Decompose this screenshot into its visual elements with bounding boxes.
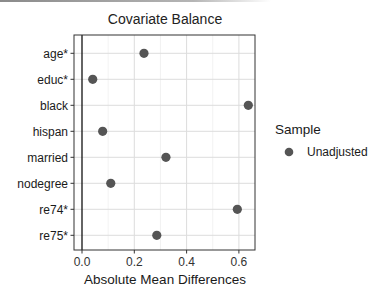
x-tick-label: 0.4 xyxy=(178,255,195,269)
data-point xyxy=(244,101,253,110)
y-tick-label: re74* xyxy=(39,203,68,217)
data-point xyxy=(233,205,242,214)
data-point xyxy=(88,75,97,84)
data-point xyxy=(152,231,161,240)
data-point xyxy=(139,49,148,58)
y-axis: age*educ*blackhispanmarriednodegreere74*… xyxy=(17,47,74,243)
legend: Sample Unadjusted xyxy=(275,122,368,159)
legend-label-unadjusted: Unadjusted xyxy=(307,145,368,159)
legend-title: Sample xyxy=(275,122,321,137)
y-tick-label: married xyxy=(27,151,68,165)
y-tick-label: hispan xyxy=(33,125,68,139)
x-tick-label: 0.2 xyxy=(126,255,143,269)
chart-title: Covariate Balance xyxy=(108,11,223,27)
y-tick-label: educ* xyxy=(37,73,68,87)
data-point xyxy=(106,179,115,188)
covariate-balance-chart: Covariate Balance age*educ*blackhispanma… xyxy=(0,0,387,296)
legend-marker-icon xyxy=(285,148,294,157)
x-axis-label: Absolute Mean Differences xyxy=(84,272,246,287)
data-point xyxy=(161,153,170,162)
y-tick-label: re75* xyxy=(39,229,68,243)
x-axis: 0.00.20.40.6 xyxy=(74,250,248,269)
x-tick-label: 0.6 xyxy=(231,255,248,269)
x-tick-label: 0.0 xyxy=(74,255,91,269)
y-tick-label: black xyxy=(40,99,69,113)
data-point xyxy=(98,127,107,136)
plot-panel xyxy=(74,35,255,250)
y-tick-label: nodegree xyxy=(17,177,68,191)
y-tick-label: age* xyxy=(43,47,68,61)
